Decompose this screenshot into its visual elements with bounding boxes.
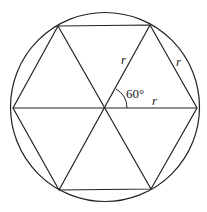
angle-label: 60° [126, 86, 144, 101]
radius-label-horizontal: r [152, 93, 158, 108]
hexagon-circle-diagram: 60° r r r [0, 0, 207, 212]
side-label-right: r [176, 54, 182, 69]
radius-label-upper: r [121, 52, 127, 67]
diagonals [13, 25, 197, 190]
